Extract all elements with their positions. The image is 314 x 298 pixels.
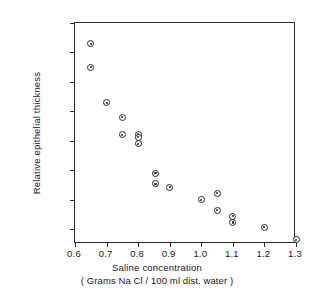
y-axis-tick [70,200,75,201]
x-axis-tick-label: 1.3 [278,249,312,259]
y-axis-tick [70,23,75,24]
x-axis-tick-label: 0.6 [57,249,91,259]
x-axis-tick [138,242,139,247]
y-axis-tick [70,52,75,53]
data-point-marker [103,99,110,106]
plot-frame [74,22,295,243]
y-axis-tick [70,141,75,142]
x-axis-tick-label: 1.2 [246,249,280,259]
y-axis-tick [70,229,75,230]
data-point-marker [87,40,94,47]
x-axis-title: Saline concentration ( Grams Na Cl / 100… [0,262,314,287]
x-axis-tick [201,242,202,247]
x-axis-tick-label: 1.1 [215,249,249,259]
x-axis-tick [170,242,171,247]
data-point-marker [87,64,94,71]
x-axis-tick [107,242,108,247]
data-point-marker [152,170,159,177]
data-point-marker [261,224,268,231]
x-axis-title-line2: ( Grams Na Cl / 100 ml dist. water ) [0,275,314,288]
plot-area [75,23,294,242]
data-point-marker [166,184,173,191]
x-axis-tick-label: 0.8 [120,249,154,259]
data-point-marker [119,131,126,138]
x-axis-tick-label: 0.9 [152,249,186,259]
data-point-marker [198,196,205,203]
data-point-marker [214,207,221,214]
x-axis-tick [264,242,265,247]
y-axis-tick [70,111,75,112]
data-point-marker [152,180,159,187]
x-axis-tick-label: 0.7 [89,249,123,259]
y-axis-title: Relative epithelial thickness [32,33,42,233]
scatter-chart-figure: 90100110120130140150160 0.60.70.80.91.01… [0,0,314,298]
data-point-marker [214,190,221,197]
data-point-marker [119,114,126,121]
data-point-marker [135,140,142,147]
y-axis-tick [70,170,75,171]
x-axis-tick-label: 1.0 [183,249,217,259]
x-axis-tick [296,242,297,247]
x-axis-tick [75,242,76,247]
x-axis-tick [233,242,234,247]
y-axis-tick [70,82,75,83]
data-point-marker [229,219,236,226]
x-axis-title-line1: Saline concentration [112,262,202,273]
